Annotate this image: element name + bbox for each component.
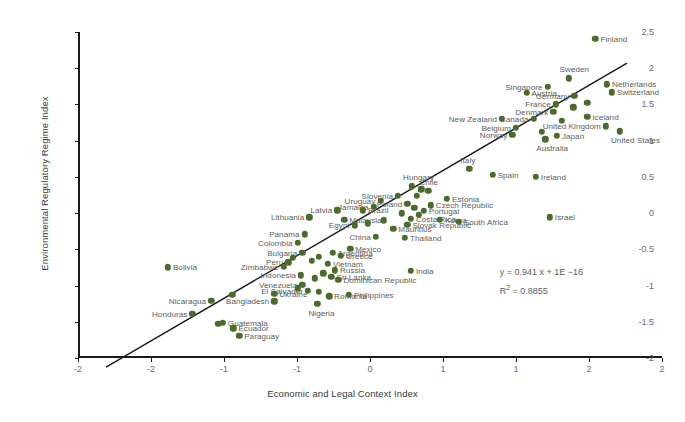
data-point-label: Indonesia (261, 271, 297, 280)
data-point-label: Germany (536, 91, 570, 100)
x-tick (297, 358, 298, 362)
x-tick-label: -1 (209, 364, 239, 374)
data-point-label: Paraguay (244, 331, 279, 340)
x-tick (516, 358, 517, 362)
x-tick-label: 1 (428, 364, 458, 374)
x-tick-label: 2 (574, 364, 604, 374)
regression-r2: R2 = 0.8855 (500, 280, 583, 299)
data-point-label: India (416, 267, 434, 276)
data-point-label: Chile (419, 177, 438, 186)
data-point-label: Zimbabwe (241, 262, 279, 271)
data-point-label: Finland (600, 34, 627, 43)
data-point-label: Thailand (410, 233, 441, 242)
data-point-label: Latvia (310, 206, 332, 215)
data-point-label: Australia (536, 144, 568, 153)
data-point-label: Ireland (541, 172, 566, 181)
x-tick (662, 358, 663, 362)
data-point-label: Israel (555, 213, 575, 222)
data-point-label: Bolivia (173, 263, 197, 272)
data-point-label: Norway (480, 130, 508, 139)
data-point-label: Japan (562, 131, 584, 140)
data-point-label: Mauritius (398, 225, 431, 234)
data-point-label: Colombia (258, 238, 293, 247)
regression-equation: y = 0.941 x + 1E −16 (500, 265, 583, 280)
data-point-label: Panama (269, 230, 299, 239)
plot-area: 2.521.510.50-0.5-1-1.5-2 -2-2-1-101122 F… (78, 32, 662, 358)
data-point-label: China (349, 233, 370, 242)
x-tick-label: 1 (501, 364, 531, 374)
data-point-label: Brazil (368, 206, 389, 215)
data-point-label: Romania (334, 292, 367, 301)
x-tick (589, 358, 590, 362)
x-tick (151, 358, 152, 362)
data-point-label: Honduras (152, 309, 188, 318)
data-point-label: Egypt (329, 221, 350, 230)
data-point-label: Nigeria (308, 308, 334, 317)
x-tick-label: -2 (63, 364, 93, 374)
x-axis-title: Economic and Legal Context Index (0, 388, 685, 399)
data-point-label: Spain (498, 170, 519, 179)
data-point-label: Dominican Republic (343, 275, 416, 284)
data-point-label: Bangladesh (226, 297, 269, 306)
data-point-label: New Zealand (449, 114, 497, 123)
data-point-label: Lithuania (271, 213, 304, 222)
data-point-label: United Kingdom (543, 122, 601, 131)
x-tick-label: -2 (136, 364, 166, 374)
x-tick-label: -1 (282, 364, 312, 374)
data-point-label: Nicaragua (169, 296, 206, 305)
x-tick (370, 358, 371, 362)
y-axis-title: Environmental Regulatory Regime Index (39, 34, 50, 334)
data-point-label: United States (611, 136, 660, 145)
data-point-label: Italy (460, 155, 475, 164)
x-tick-label: 2 (647, 364, 677, 374)
x-tick (78, 358, 79, 362)
x-tick (224, 358, 225, 362)
data-point-label: Ukraine (279, 289, 307, 298)
x-tick-label: 0 (355, 364, 385, 374)
data-point-label: Sweden (560, 65, 590, 74)
data-point-label: Iceland (592, 112, 618, 121)
chart-container: Environmental Regulatory Regime Index Ec… (0, 0, 685, 422)
regression-annotation: y = 0.941 x + 1E −16 R2 = 0.8855 (500, 265, 583, 299)
data-point-label: Switzerland (617, 88, 659, 97)
x-tick (443, 358, 444, 362)
data-point-label: Canada (500, 114, 529, 123)
